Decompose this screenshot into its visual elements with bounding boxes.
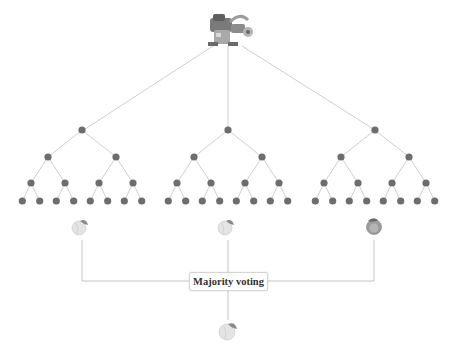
tree-node bbox=[36, 197, 43, 204]
tree-node bbox=[312, 197, 319, 204]
tree-node bbox=[224, 126, 231, 133]
tree-node bbox=[346, 197, 353, 204]
tree-node bbox=[27, 179, 34, 186]
random-forest-diagram bbox=[0, 0, 455, 361]
tree-node bbox=[422, 179, 429, 186]
tree-3 bbox=[312, 126, 439, 204]
tree-node bbox=[207, 179, 214, 186]
tree-node bbox=[320, 179, 327, 186]
tree-node bbox=[363, 197, 370, 204]
majority-voting-box: Majority voting bbox=[189, 272, 268, 291]
tree-node bbox=[337, 153, 344, 160]
tree-node bbox=[190, 153, 197, 160]
tree-node bbox=[388, 179, 395, 186]
tree-node bbox=[78, 126, 85, 133]
tree-node bbox=[19, 197, 26, 204]
tree-node bbox=[199, 197, 206, 204]
majority-voting-label: Majority voting bbox=[193, 276, 264, 287]
tree-node bbox=[104, 197, 111, 204]
tree-node bbox=[258, 153, 265, 160]
tree-node bbox=[61, 179, 68, 186]
tree-1-prediction-peach-icon bbox=[72, 220, 88, 235]
tree-node bbox=[405, 153, 412, 160]
tree-node bbox=[165, 197, 172, 204]
tree-node bbox=[414, 197, 421, 204]
tree-node bbox=[354, 179, 361, 186]
tree-node bbox=[182, 197, 189, 204]
tree-node bbox=[70, 197, 77, 204]
decision-trees bbox=[19, 126, 439, 204]
tree-node bbox=[87, 197, 94, 204]
tree-node bbox=[173, 179, 180, 186]
tree-node bbox=[329, 197, 336, 204]
tree-node bbox=[53, 197, 60, 204]
tree-node bbox=[241, 179, 248, 186]
tree-2 bbox=[165, 126, 292, 204]
tree-node bbox=[129, 179, 136, 186]
final-prediction-peach-icon bbox=[219, 323, 237, 340]
tree-node bbox=[267, 197, 274, 204]
tree-node bbox=[284, 197, 291, 204]
tree-node bbox=[44, 153, 51, 160]
tree-node bbox=[275, 179, 282, 186]
tree-node bbox=[397, 197, 404, 204]
tree-node bbox=[431, 197, 438, 204]
tree-node bbox=[121, 197, 128, 204]
tree-node bbox=[233, 197, 240, 204]
tree-node bbox=[380, 197, 387, 204]
tree-1 bbox=[19, 126, 146, 204]
tree-node bbox=[112, 153, 119, 160]
robot-icon bbox=[208, 14, 253, 46]
tree-node bbox=[371, 126, 378, 133]
root-connectors bbox=[82, 44, 375, 131]
tree-node bbox=[216, 197, 223, 204]
tree-node bbox=[138, 197, 145, 204]
tree-node bbox=[250, 197, 257, 204]
tree-3-prediction-orange-icon bbox=[367, 218, 382, 234]
tree-2-prediction-peach-icon bbox=[218, 220, 234, 235]
tree-node bbox=[95, 179, 102, 186]
